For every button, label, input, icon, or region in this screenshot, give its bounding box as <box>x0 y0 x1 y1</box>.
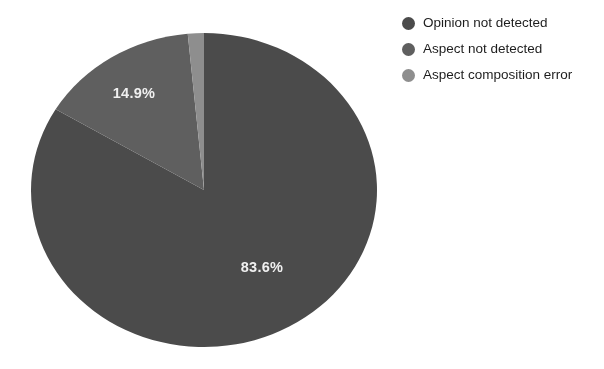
pie-plot-area: 83.6% 14.9% <box>0 0 400 369</box>
pie-chart-figure: 83.6% 14.9% Opinion not detected Aspect … <box>0 0 604 369</box>
legend-swatch-icon <box>402 17 415 30</box>
legend-item-opinion-not-detected[interactable]: Opinion not detected <box>402 14 602 31</box>
legend-item-label: Aspect not detected <box>423 40 542 57</box>
pie-svg: 83.6% 14.9% <box>0 0 400 369</box>
legend-item-aspect-not-detected[interactable]: Aspect not detected <box>402 40 602 57</box>
legend: Opinion not detected Aspect not detected… <box>402 14 602 92</box>
slice-value-label-aspect-not-detected: 14.9% <box>113 85 156 101</box>
legend-item-label: Opinion not detected <box>423 14 548 31</box>
legend-item-aspect-composition-error[interactable]: Aspect composition error <box>402 66 602 83</box>
pie-slice-group <box>31 33 377 347</box>
legend-swatch-icon <box>402 43 415 56</box>
slice-value-label-opinion-not-detected: 83.6% <box>241 259 284 275</box>
legend-item-label: Aspect composition error <box>423 66 572 83</box>
legend-swatch-icon <box>402 69 415 82</box>
